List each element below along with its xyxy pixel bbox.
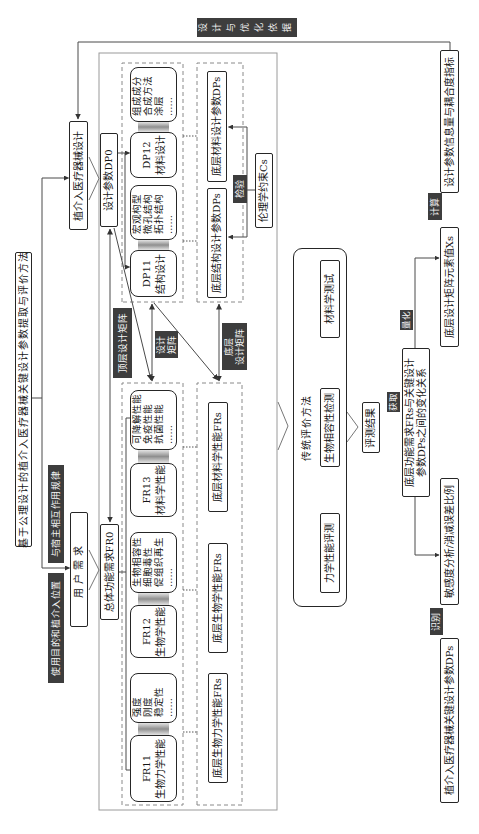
compute-tag: 计算 bbox=[428, 193, 442, 220]
top-design-matrix-text: 顶层设计矩阵 bbox=[118, 313, 128, 373]
design-matrix-line-1: 设计 bbox=[156, 336, 167, 354]
user-needs-box: 用户需求 bbox=[70, 512, 88, 627]
fr12-id: FR12 bbox=[140, 618, 154, 645]
fr12-name: 生物学性能 bbox=[154, 607, 168, 657]
fr0-text: 总体功能需求FR0 bbox=[105, 532, 115, 613]
dp11-name: 结构设计 bbox=[154, 254, 168, 294]
fr11-detail-ellipsis: …… bbox=[164, 698, 175, 717]
dp11-box: DP11 结构设计 bbox=[130, 250, 177, 297]
chevron-device-to-dp0-icon bbox=[89, 157, 99, 200]
title-text: 基于公理设计的植介入医疗器械关键设计参数提取与评价方法 bbox=[19, 251, 29, 548]
bottom-fr-biology-box: 底层生物学性能FRs bbox=[208, 543, 228, 653]
bottom-design-matrix-line-2: 设计矩阵 bbox=[235, 329, 246, 365]
fr13-box: FR13 材料学性能 bbox=[130, 463, 177, 517]
material-test-text: 材料学测试 bbox=[325, 274, 335, 324]
evaluation-result-text: 评测结果 bbox=[366, 408, 376, 448]
host-interaction-tag-text: 与宿主相互作用规律 bbox=[52, 471, 61, 557]
dp12-box: DP12 材料设计 bbox=[130, 132, 177, 178]
fr13-id: FR13 bbox=[140, 476, 154, 503]
sensitivity-box: 敏感度分析/消减误差比例 bbox=[440, 478, 459, 605]
bottom-dp-material-text: 底层材料设计参数DPs bbox=[212, 77, 222, 177]
matrix-values-box: 底层设计矩阵元素值Xs bbox=[440, 227, 459, 347]
device-design-box: 植介入医疗器械设计 bbox=[69, 121, 88, 230]
bottom-fr-biomechanics-text: 底层生物力学性能FRs bbox=[213, 678, 223, 778]
dp12-detail-connector bbox=[138, 122, 169, 132]
evaluation-result-box: 评测结果 bbox=[362, 402, 380, 453]
quantify-tag-text: 量化 bbox=[402, 311, 411, 329]
title-box: 基于公理设计的植介入医疗器械关键设计参数提取与评价方法 bbox=[15, 252, 32, 547]
purpose-location-tag: 使用目的和植介入位置 bbox=[48, 573, 64, 683]
dp0-box: 设计参数DP0 bbox=[100, 133, 118, 227]
compute-tag-text: 计算 bbox=[431, 198, 440, 216]
chevron-evaluation-to-result-icon bbox=[347, 412, 358, 442]
dp12-detail-box: 组成成分 合成方法 涂层 …… bbox=[130, 67, 177, 122]
dp11-detail-connector bbox=[138, 240, 169, 250]
dp11-id: DP11 bbox=[140, 260, 154, 287]
bottom-fr-material-text: 底层材料学性能FRs bbox=[213, 412, 223, 502]
relation-box: 底层功能需求FRs与关键设计 参数DPs之间的变化关系 bbox=[402, 348, 430, 497]
top-design-matrix-tag: 顶层设计矩阵 bbox=[113, 308, 132, 378]
check-tag: 检验 bbox=[233, 175, 247, 203]
fr12-detail-ellipsis: …… bbox=[164, 568, 175, 587]
ethics-constraint-text: 伦理学约束Cs bbox=[259, 159, 269, 222]
sensitivity-text: 敏感度分析/消减误差比例 bbox=[445, 485, 455, 598]
fr0-box: 总体功能需求FR0 bbox=[100, 524, 119, 620]
dp12-id: DP12 bbox=[140, 141, 154, 168]
dp11-detail: 微孔结构 bbox=[143, 194, 154, 234]
fr11-name: 生物力学性能 bbox=[154, 739, 168, 799]
key-dps-box: 植介入医疗器械关键设计参数DPs bbox=[440, 638, 459, 803]
design-matrix-tag: 设计 矩阵 bbox=[155, 331, 178, 358]
fr13-detail: 免疫性能 bbox=[143, 404, 154, 444]
dp11-detail-box: 宏观构型 微孔结构 拓扑结构 …… bbox=[130, 185, 177, 240]
chevron-needs-to-fr0-icon bbox=[89, 550, 99, 590]
fr11-detail-box: 强度 刚度 稳定性 …… bbox=[130, 673, 177, 723]
bottom-fr-material-box: 底层材料学性能FRs bbox=[208, 402, 228, 512]
bottom-dp-material-box: 底层材料设计参数DPs bbox=[207, 71, 227, 182]
identify-tag: 识别 bbox=[430, 608, 443, 635]
device-design-text: 植介入医疗器械设计 bbox=[74, 131, 84, 221]
acquire-tag: 获取 bbox=[387, 392, 400, 412]
ethics-constraint-box: 伦理学约束Cs bbox=[255, 153, 273, 228]
fr11-box: FR11 生物力学性能 bbox=[130, 735, 177, 802]
user-needs-text: 用户需求 bbox=[74, 542, 84, 598]
quantify-tag: 量化 bbox=[400, 310, 413, 330]
diagram-canvas: 基于公理设计的植介入医疗器械关键设计参数提取与评价方法 设计与优化依据 使用目的… bbox=[0, 0, 479, 834]
bottom-design-matrix-line-1: 底层 bbox=[224, 338, 235, 356]
purpose-location-tag-text: 使用目的和植介入位置 bbox=[52, 580, 61, 676]
relation-to-sensitivity-arrow bbox=[415, 497, 439, 555]
fr11-detail-connector bbox=[138, 723, 169, 735]
bottom-fr-biology-text: 底层生物学性能FRs bbox=[213, 553, 223, 643]
fr13-detail-box: 可降解性能 免疫性能 抗菌性能 …… bbox=[130, 390, 177, 450]
matrix-values-text: 底层设计矩阵元素值Xs bbox=[445, 236, 455, 338]
dp0-text: 设计参数DP0 bbox=[104, 149, 114, 210]
check-tag-text: 检验 bbox=[236, 180, 245, 198]
bottom-dp-structure-box: 底层结构设计参数DPs bbox=[207, 188, 227, 298]
chevron-frame-to-evaluation-icon bbox=[278, 402, 288, 450]
material-test-box: 材料学测试 bbox=[320, 260, 340, 338]
relation-to-matrix-values-arrow bbox=[415, 258, 439, 348]
key-dps-text: 植介入医疗器械关键设计参数DPs bbox=[445, 646, 455, 796]
fr13-detail-ellipsis: …… bbox=[164, 425, 175, 444]
acquire-tag-text: 获取 bbox=[389, 393, 398, 411]
design-matrix-line-2: 矩阵 bbox=[167, 336, 178, 354]
bottom-fr-biomechanics-box: 底层生物力学性能FRs bbox=[208, 673, 228, 783]
fr12-detail-connector bbox=[138, 593, 169, 605]
relation-line-2: 参数DPs之间的变化关系 bbox=[416, 368, 428, 478]
fr11-id: FR11 bbox=[140, 755, 154, 782]
dp11-detail-ellipsis: …… bbox=[164, 215, 175, 234]
fr12-box: FR12 生物学性能 bbox=[130, 605, 177, 658]
fr11-detail: 刚度 bbox=[143, 697, 154, 717]
biocompatibility-test-box: 生物相容性检测 bbox=[320, 388, 340, 467]
traditional-evaluation-title: 传统评价方法 bbox=[298, 249, 313, 606]
mechanics-test-text: 力学性能评测 bbox=[325, 523, 335, 583]
bottom-design-matrix-tag: 底层 设计矩阵 bbox=[222, 323, 247, 370]
info-metrics-text: 设计参数信息量与耦合度指标 bbox=[445, 57, 455, 187]
identify-tag-text: 识别 bbox=[432, 613, 441, 631]
dp12-detail: 合成方法 bbox=[143, 76, 154, 116]
fr13-name: 材料学性能 bbox=[154, 465, 168, 515]
feedback-tag-text: 设计与优化依据 bbox=[198, 23, 296, 32]
dp12-detail-ellipsis: …… bbox=[164, 97, 175, 116]
dp12-name: 材料设计 bbox=[154, 135, 168, 175]
info-metrics-box: 设计参数信息量与耦合度指标 bbox=[440, 50, 459, 193]
fr12-detail-box: 生物相容性 细胞毒性 促组织再生 …… bbox=[130, 532, 177, 593]
